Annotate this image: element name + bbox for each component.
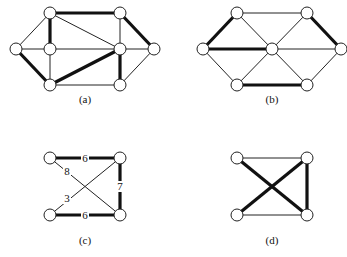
graph-edge [120,49,154,85]
panel-caption: (d) [266,234,279,247]
graph-edge [237,49,272,85]
highlighted-edge [120,13,154,49]
graph-node [301,7,313,19]
graph-node [231,209,243,221]
graph-node [301,79,313,91]
graph-node [301,152,313,164]
graph-node [44,209,56,221]
edge-weight-label: 6 [82,152,88,164]
graph-node [44,152,56,164]
edge-weight-label: 3 [64,192,70,204]
graph-edge [272,49,307,85]
graph-panel-d: (d) [231,152,313,247]
graph-node [114,209,126,221]
graph-edge [307,49,341,85]
edge-weight-label: 8 [64,165,70,177]
graph-figure: (a) (b) 68376(c) (d) [0,0,347,257]
graph-node [148,43,160,55]
graph-panel-a: (a) [10,7,160,106]
edge-weight-label: 6 [82,209,88,221]
graph-node [44,43,56,55]
graph-node [114,79,126,91]
panel-caption: (a) [79,93,92,106]
highlighted-edge [50,49,120,85]
graph-node [266,43,278,55]
highlighted-edge [307,13,341,49]
graph-node [44,79,56,91]
graph-node [231,79,243,91]
panel-caption: (b) [266,93,279,106]
graph-edge [16,13,50,49]
graph-node [335,43,347,55]
graph-node [114,7,126,19]
panel-caption: (c) [79,234,92,247]
graph-node [114,152,126,164]
graph-node [301,209,313,221]
graph-node [231,7,243,19]
graph-edge [237,13,272,49]
graph-node [197,43,209,55]
graph-edge [272,13,307,49]
highlighted-edge [16,49,50,85]
graph-node [114,43,126,55]
graph-node [231,152,243,164]
edge-weight-label: 7 [117,180,123,192]
highlighted-edge [203,13,237,49]
graph-panel-b: (b) [197,7,347,106]
graph-edge [50,13,120,49]
graph-node [10,43,22,55]
graph-edge [203,49,237,85]
graph-panel-c: 68376(c) [44,152,126,247]
graph-node [44,7,56,19]
